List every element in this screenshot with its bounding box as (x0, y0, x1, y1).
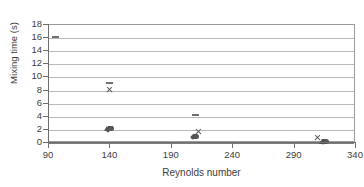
y-axis-line (48, 24, 49, 143)
gridline (49, 104, 354, 105)
y-axis-tick-label: 0 (2, 137, 42, 147)
y-axis-tick (43, 103, 48, 104)
data-point-cross (314, 134, 321, 141)
y-axis-tick (43, 129, 48, 130)
plot-area (48, 24, 355, 142)
x-axis-tick-label: 290 (274, 150, 314, 160)
y-axis-tick-label: 4 (2, 111, 42, 121)
data-point-diamond (190, 134, 196, 140)
data-point-circle (194, 134, 199, 139)
x-axis-tick (109, 143, 110, 148)
x-axis-tick-label: 140 (89, 150, 129, 160)
gridline (49, 64, 354, 65)
gridline (49, 51, 354, 52)
gridline (49, 38, 354, 39)
y-axis-tick (43, 50, 48, 51)
x-axis-tick-label: 90 (28, 150, 68, 160)
y-axis-tick (43, 24, 48, 25)
x-axis-tick (355, 143, 356, 148)
scatter-chart: 024681012141618 Mixing time (s) 90140190… (0, 0, 364, 187)
y-axis-tick-label: 8 (2, 85, 42, 95)
gridline (49, 91, 354, 92)
y-axis-tick (43, 116, 48, 117)
gridline (49, 130, 354, 131)
y-axis-tick-label: 6 (2, 98, 42, 108)
y-axis-tick (43, 76, 48, 77)
x-axis-line (48, 142, 356, 143)
gridline (49, 143, 354, 144)
gridline (49, 77, 354, 78)
data-point-dash (106, 82, 113, 84)
x-axis-tick (232, 143, 233, 148)
x-axis-tick-label: 340 (335, 150, 364, 160)
y-axis-tick-label: 2 (2, 124, 42, 134)
y-axis-title: Mixing time (s) (9, 0, 19, 113)
x-axis-tick (48, 143, 49, 148)
x-axis-tick-label: 240 (212, 150, 252, 160)
x-axis-tick (171, 143, 172, 148)
data-point-triangle (191, 134, 197, 139)
x-axis-tick (294, 143, 295, 148)
y-axis-tick (43, 37, 48, 38)
gridline (49, 117, 354, 118)
y-axis-tick (43, 90, 48, 91)
x-axis-tick-label: 190 (151, 150, 191, 160)
y-axis-tick (43, 63, 48, 64)
x-axis-title: Reynolds number (48, 167, 355, 178)
data-point-square (193, 134, 198, 139)
